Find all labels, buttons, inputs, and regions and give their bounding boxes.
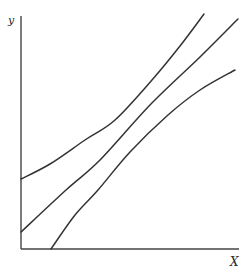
y-axis-label: y — [7, 14, 15, 27]
upper-band-line — [21, 14, 204, 179]
lower-band-line — [51, 70, 235, 249]
regression-band-chart: y X — [0, 0, 252, 270]
chart-container: y X — [0, 0, 252, 270]
x-axis-label: X — [229, 255, 239, 269]
center-line — [21, 19, 238, 232]
